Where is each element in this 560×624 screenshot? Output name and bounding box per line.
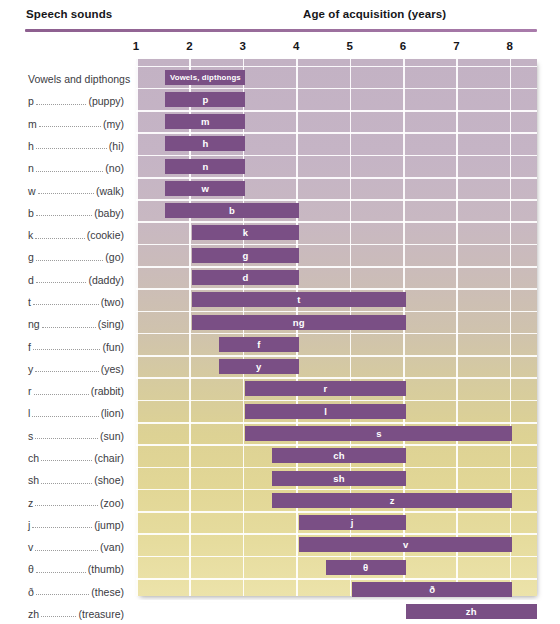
acquisition-bar: g (192, 248, 299, 263)
age-of-acquisition-header: Age of acquisition (years) (303, 8, 446, 20)
sound-label-row: v(van) (0, 536, 132, 558)
example-word: (lion) (101, 407, 132, 419)
horizontal-gridline (136, 355, 537, 357)
acquisition-bar: zh (406, 604, 537, 619)
sound-label-row: p(puppy) (0, 90, 132, 112)
sound-label-row: m(my) (0, 113, 132, 135)
horizontal-gridline (136, 489, 537, 491)
dot-leader (35, 505, 98, 506)
sound-symbol: b (0, 207, 34, 219)
example-word: (chair) (94, 452, 132, 464)
example-word: (hi) (109, 140, 132, 152)
dot-leader (35, 438, 98, 439)
acquisition-bar: θ (326, 560, 406, 575)
sound-label-row: r(rabbit) (0, 380, 132, 402)
sound-symbol: sh (0, 474, 39, 486)
dot-leader (33, 304, 99, 305)
sound-symbol: ch (0, 452, 39, 464)
example-word: (van) (100, 541, 132, 553)
vertical-gridline (456, 59, 458, 596)
example-word: (cookie) (87, 229, 132, 241)
sound-label-row: n(no) (0, 157, 132, 179)
acquisition-bar: s (245, 426, 512, 441)
acquisition-bar: ch (272, 448, 406, 463)
header-rule-divider (25, 29, 537, 32)
horizontal-gridline (136, 311, 537, 313)
sound-label-row: w(walk) (0, 179, 132, 201)
acquisition-bar: n (165, 159, 245, 174)
sound-label-row: y(yes) (0, 358, 132, 380)
horizontal-gridline (136, 377, 537, 379)
sound-symbol: k (0, 229, 33, 241)
example-word: (yes) (101, 363, 132, 375)
dot-leader (41, 460, 92, 461)
horizontal-gridline (136, 132, 537, 134)
dot-leader (35, 238, 84, 239)
horizontal-gridline (136, 88, 537, 90)
sound-symbol: y (0, 363, 33, 375)
sound-label-row: ð(these) (0, 580, 132, 602)
horizontal-gridline (136, 467, 537, 469)
sound-label-row: ng(sing) (0, 313, 132, 335)
sound-label-row: l(lion) (0, 402, 132, 424)
x-tick-5: 5 (346, 40, 352, 52)
acquisition-bar: t (192, 292, 406, 307)
example-word: (jump) (94, 519, 132, 531)
example-word: (two) (101, 296, 132, 308)
horizontal-gridline (136, 533, 537, 535)
speech-sounds-header: Speech sounds (26, 8, 112, 20)
horizontal-gridline (136, 199, 537, 201)
dot-leader (32, 416, 98, 417)
dot-leader (38, 193, 94, 194)
example-word: (rabbit) (91, 385, 132, 397)
example-word: (shoe) (94, 474, 132, 486)
x-tick-3: 3 (240, 40, 246, 52)
horizontal-gridline (136, 511, 537, 513)
vertical-gridline (136, 59, 138, 596)
sound-label-row: k(cookie) (0, 224, 132, 246)
dot-leader (36, 260, 103, 261)
x-tick-1: 1 (133, 40, 139, 52)
dot-leader (32, 527, 92, 528)
example-word: (thumb) (88, 563, 132, 575)
horizontal-gridline (136, 600, 537, 602)
sound-symbol: d (0, 274, 34, 286)
x-axis-tick-labels: 12345678 (0, 40, 560, 58)
dot-leader (41, 483, 92, 484)
horizontal-gridline (136, 333, 537, 335)
sound-label-row: h(hi) (0, 135, 132, 157)
sound-symbol: ng (0, 318, 40, 330)
sound-label-row: zh(treasure) (0, 603, 132, 624)
sound-symbol: j (0, 519, 30, 531)
sound-label-row: d(daddy) (0, 269, 132, 291)
sound-label-row: g(go) (0, 246, 132, 268)
sound-symbol: zh (0, 608, 39, 620)
acquisition-bar: w (165, 181, 245, 196)
acquisition-bar: l (245, 404, 405, 419)
example-word: (puppy) (88, 95, 132, 107)
example-word: (baby) (94, 207, 132, 219)
example-word: (daddy) (88, 274, 132, 286)
sound-label-row: z(zoo) (0, 491, 132, 513)
sound-label-row: b(baby) (0, 202, 132, 224)
horizontal-gridline (136, 177, 537, 179)
sound-label-row: j(jump) (0, 514, 132, 536)
horizontal-gridline (136, 288, 537, 290)
sound-symbol: θ (0, 563, 34, 575)
plot-area: Vowels, dipthongspmhnwbkgdtngfyrlschshzj… (136, 59, 537, 596)
sound-label-row: sh(shoe) (0, 469, 132, 491)
acquisition-bar: ng (192, 315, 406, 330)
acquisition-bar: sh (272, 471, 406, 486)
horizontal-gridline (136, 400, 537, 402)
sound-symbol: h (0, 140, 34, 152)
acquisition-bar: k (192, 225, 299, 240)
dot-leader (36, 171, 103, 172)
sound-label-row: θ(thumb) (0, 558, 132, 580)
acquisition-bar: h (165, 136, 245, 151)
example-word: (sing) (98, 318, 132, 330)
example-word: (no) (105, 162, 132, 174)
acquisition-bar: Vowels, dipthongs (165, 70, 245, 85)
dot-leader (39, 126, 101, 127)
sound-symbol: w (0, 185, 36, 197)
